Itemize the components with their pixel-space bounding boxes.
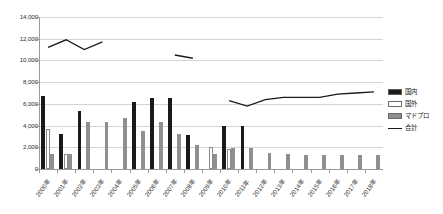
x-axis-tick-label: 2012年 [252,178,269,197]
total-line-segment [229,92,374,106]
x-axis-tick-label: 2000年 [35,178,52,197]
legend-label: マドプロ [405,113,429,119]
x-axis-tick-mark [148,170,149,173]
x-axis-tick-label: 2003年 [89,178,106,197]
y-axis-ticks: 02,0004,0006,0008,00010,00012,00014,000 [0,17,38,169]
x-axis-tick-mark [329,170,330,173]
legend-swatch-foreign [388,101,402,107]
x-axis-tick-mark [311,170,312,173]
y-axis-tick-label: 2,000 [2,144,38,150]
legend-label: 合計 [405,125,417,131]
x-axis-tick-mark [347,170,348,173]
y-axis-tick-label: 0 [2,166,38,172]
legend-swatch-total [388,125,402,131]
x-axis-tick-label: 2015年 [306,178,323,197]
x-axis-tick-label: 2007年 [162,178,179,197]
x-axis-tick-label: 2004年 [107,178,124,197]
line-series-layer [39,17,383,169]
y-axis-tick-label: 14,000 [2,14,38,20]
chart-container: 02,0004,0006,0008,00010,00012,00014,000 … [0,0,443,214]
legend-label: 国外 [405,101,417,107]
y-axis-tick-label: 8,000 [2,79,38,85]
x-axis-tick-mark [39,170,40,173]
legend-item: 国内 [388,86,440,98]
legend-item: マドプロ [388,110,440,122]
x-axis-tick-mark [130,170,131,173]
x-axis-tick-mark [202,170,203,173]
x-axis-tick-label: 2013年 [270,178,287,197]
x-axis-tick-mark [93,170,94,173]
total-line-segment [175,55,193,58]
x-axis-tick-mark [292,170,293,173]
y-axis-tick-label: 6,000 [2,101,38,107]
x-axis-labels: 2000年2001年2002年2003年2004年2005年2006年2007年… [39,170,383,214]
legend-item: 国外 [388,98,440,110]
x-axis-tick-label: 2002年 [71,178,88,197]
total-line-svg [39,17,383,169]
x-axis-tick-mark [57,170,58,173]
x-axis-tick-label: 2014年 [288,178,305,197]
x-axis-tick-mark [220,170,221,173]
x-axis-tick-label: 2009年 [198,178,215,197]
x-axis-tick-mark [166,170,167,173]
x-axis-tick-label: 2018年 [361,178,378,197]
legend-item: 合計 [388,122,440,134]
y-axis-tick-label: 4,000 [2,122,38,128]
legend-swatch-domestic [388,89,402,95]
x-axis-tick-mark [111,170,112,173]
x-axis-tick-label: 2016年 [324,178,341,197]
x-axis-tick-label: 2006年 [143,178,160,197]
chart-legend: 国内国外マドプロ合計 [388,86,440,134]
x-axis-tick-mark [238,170,239,173]
y-axis-tick-label: 10,000 [2,57,38,63]
x-axis-tick-label: 2017年 [343,178,360,197]
total-line-segment [48,40,102,50]
x-axis-tick-mark [365,170,366,173]
legend-label: 国内 [405,89,417,95]
x-axis-tick-mark [274,170,275,173]
legend-swatch-madopro [388,113,402,119]
x-axis-tick-label: 2011年 [234,179,251,198]
y-axis-tick-label: 12,000 [2,36,38,42]
x-axis-tick-mark [256,170,257,173]
x-axis-tick-label: 2005年 [125,178,142,197]
x-axis-tick-mark [184,170,185,173]
x-axis-tick-mark [75,170,76,173]
x-axis-tick-label: 2010年 [216,178,233,197]
x-axis-tick-label: 2001年 [53,178,70,197]
x-axis-tick-label: 2008年 [180,178,197,197]
